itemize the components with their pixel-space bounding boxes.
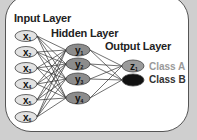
node-x4: x4 <box>15 79 37 90</box>
node-x5: x5 <box>15 95 37 106</box>
node-x1: x1 <box>15 31 37 42</box>
node-y1: y1 <box>66 44 90 56</box>
node-x3: x3 <box>15 63 37 74</box>
node-y3: y3 <box>66 73 90 85</box>
edge <box>90 50 122 66</box>
node-z2: z2 <box>122 74 144 86</box>
edge <box>90 64 122 80</box>
edge <box>90 80 122 98</box>
class-b-label: Class B <box>149 74 186 85</box>
hidden-layer-title: Hidden Layer <box>51 27 118 39</box>
node-y4: y4 <box>66 92 90 104</box>
node-x6: x6 <box>15 112 37 123</box>
node-z1: z1 <box>122 60 144 72</box>
output-layer-title: Output Layer <box>105 40 171 52</box>
edge <box>90 66 122 98</box>
node-y2: y2 <box>66 58 90 70</box>
edge <box>90 79 122 80</box>
input-layer-title: Input Layer <box>14 12 71 24</box>
edge <box>90 64 122 66</box>
edge <box>90 66 122 79</box>
class-a-label: Class A <box>149 61 185 72</box>
node-x2: x2 <box>15 47 37 58</box>
